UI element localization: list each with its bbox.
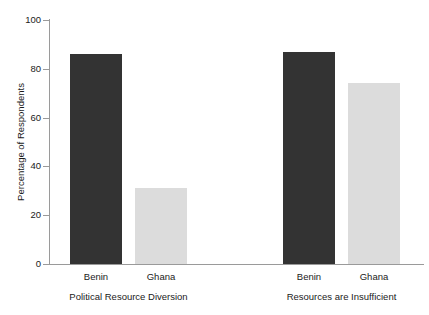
group-label-1: Political Resource Diversion [39,291,219,303]
y-tick-label: 20 [3,210,41,220]
y-tick-mark [43,69,49,70]
y-axis-title: Percentage of Respondents [14,20,28,264]
y-tick-label-wrap: 100 [0,15,41,25]
y-tick-label: 40 [3,161,41,171]
cropped-title-sliver [150,0,310,4]
bar-benin-resources-are-insufficient[interactable] [283,52,335,264]
y-tick-mark [43,166,49,167]
x-tick-label-ghana-political-resource-diversion: Ghana [121,271,201,283]
bar-chart: Percentage of Respondents 100806040200 B… [0,0,429,315]
x-axis-line [49,264,424,265]
bar-ghana-political-resource-diversion[interactable] [135,188,187,264]
bar-benin-political-resource-diversion[interactable] [70,54,122,264]
y-tick-mark [43,20,49,21]
y-tick-mark [43,118,49,119]
y-tick-label: 80 [3,64,41,74]
x-tick-label-ghana-resources-are-insufficient: Ghana [334,271,414,283]
y-tick-label-wrap: 0 [0,259,41,269]
y-tick-mark [43,264,49,265]
bar-ghana-resources-are-insufficient[interactable] [348,83,400,264]
y-tick-label: 60 [3,113,41,123]
y-tick-label-wrap: 40 [0,161,41,171]
y-tick-mark [43,215,49,216]
group-label-2: Resources are Insufficient [252,291,429,303]
y-tick-label-wrap: 60 [0,113,41,123]
y-tick-label-wrap: 20 [0,210,41,220]
y-tick-label: 0 [3,259,41,269]
y-tick-label: 100 [3,15,41,25]
y-tick-label-wrap: 80 [0,64,41,74]
bars-container [50,20,424,264]
